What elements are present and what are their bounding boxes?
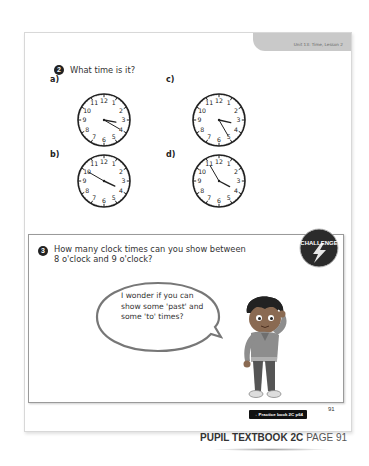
svg-text:2: 2	[119, 168, 123, 175]
speech-line-1: I wonder if you can	[121, 291, 211, 302]
svg-text:4: 4	[234, 187, 238, 194]
svg-text:4: 4	[119, 126, 123, 133]
clock-d: 121234567891011	[189, 151, 249, 211]
svg-text:5: 5	[112, 133, 116, 140]
svg-text:12: 12	[100, 158, 108, 165]
svg-text:7: 7	[92, 133, 96, 140]
svg-text:7: 7	[207, 133, 211, 140]
footer-shadow	[212, 448, 330, 451]
svg-text:5: 5	[112, 194, 116, 201]
svg-text:6: 6	[102, 136, 106, 143]
svg-text:11: 11	[90, 160, 98, 167]
textbook-page: Unit 13: Time, Lesson 2 2 What time is i…	[24, 32, 352, 432]
svg-text:6: 6	[217, 136, 221, 143]
clock-label-b: b)	[50, 150, 59, 159]
question-3-prompt: How many clock times can you show betwee…	[54, 244, 294, 264]
svg-text:9: 9	[83, 177, 87, 184]
page-footer-caption: PUPIL TEXTBOOK 2CPAGE 91	[200, 430, 350, 446]
svg-text:10: 10	[83, 107, 91, 114]
svg-text:1: 1	[227, 160, 231, 167]
svg-text:3: 3	[122, 177, 126, 184]
svg-text:11: 11	[205, 160, 213, 167]
svg-text:1: 1	[112, 160, 116, 167]
clock-label-c: c)	[166, 75, 174, 84]
clock-b: 121234567891011	[74, 151, 134, 211]
svg-text:11: 11	[205, 99, 213, 106]
page-label: PAGE 91	[306, 432, 347, 443]
svg-text:4: 4	[119, 187, 123, 194]
svg-text:8: 8	[85, 187, 89, 194]
clock-label-d: d)	[166, 150, 175, 159]
svg-text:7: 7	[92, 194, 96, 201]
book-title: PUPIL TEXTBOOK 2C	[200, 432, 303, 443]
svg-text:12: 12	[100, 97, 108, 104]
svg-text:2: 2	[234, 107, 238, 114]
svg-text:2: 2	[119, 107, 123, 114]
question-number-2: 2	[54, 65, 64, 75]
svg-text:3: 3	[122, 116, 126, 123]
challenge-badge-icon: CHALLENGE	[299, 228, 339, 268]
svg-text:1: 1	[227, 99, 231, 106]
svg-text:CHALLENGE: CHALLENGE	[300, 240, 337, 246]
question-3-line-2: 8 o'clock and 9 o'clock?	[54, 254, 294, 264]
svg-text:2: 2	[234, 168, 238, 175]
svg-text:7: 7	[207, 194, 211, 201]
svg-text:10: 10	[198, 107, 206, 114]
svg-text:10: 10	[83, 168, 91, 175]
svg-text:8: 8	[200, 126, 204, 133]
svg-text:12: 12	[215, 158, 223, 165]
svg-text:8: 8	[200, 187, 204, 194]
boy-character-icon	[231, 295, 301, 401]
svg-text:5: 5	[227, 194, 231, 201]
clock-a: 121234567891011	[74, 90, 134, 150]
clock-c: 121234567891011	[189, 90, 249, 150]
svg-text:6: 6	[102, 197, 106, 204]
svg-text:4: 4	[234, 126, 238, 133]
unit-tab: Unit 13: Time, Lesson 2	[253, 33, 351, 51]
svg-text:10: 10	[198, 168, 206, 175]
svg-text:12: 12	[215, 97, 223, 104]
clock-label-a: a)	[50, 75, 59, 84]
svg-text:9: 9	[83, 116, 87, 123]
question-number-3: 3	[38, 246, 48, 256]
svg-text:3: 3	[237, 116, 241, 123]
svg-text:8: 8	[85, 126, 89, 133]
svg-text:9: 9	[198, 177, 202, 184]
svg-text:6: 6	[217, 197, 221, 204]
speech-bubble-text: I wonder if you can show some 'past' and…	[121, 291, 211, 323]
speech-line-3: some 'to' times?	[121, 312, 211, 323]
speech-line-2: show some 'past' and	[121, 302, 211, 313]
question-3-line-1: How many clock times can you show betwee…	[54, 244, 294, 254]
svg-text:3: 3	[237, 177, 241, 184]
page-number: 91	[328, 406, 335, 412]
svg-text:9: 9	[198, 116, 202, 123]
svg-text:1: 1	[112, 99, 116, 106]
svg-text:11: 11	[90, 99, 98, 106]
practice-book-link[interactable]: → Practice book 2C p64	[249, 410, 307, 419]
question-2-prompt: What time is it?	[70, 65, 135, 75]
